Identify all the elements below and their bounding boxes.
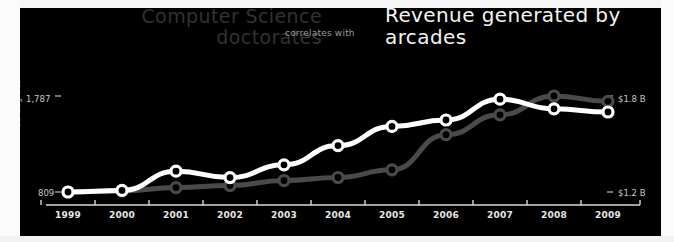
data-point-marker bbox=[333, 173, 343, 183]
x-axis-label-2005: 2005 bbox=[379, 210, 405, 220]
top-border bbox=[0, 0, 674, 8]
x-axis-label-1999: 1999 bbox=[55, 210, 81, 220]
x-axis-label-2003: 2003 bbox=[271, 210, 297, 220]
data-point-marker bbox=[63, 187, 73, 197]
data-point-marker bbox=[549, 91, 559, 101]
data-point-marker bbox=[603, 96, 613, 106]
data-point-marker bbox=[387, 121, 397, 131]
x-axis-label-2000: 2000 bbox=[109, 210, 135, 220]
data-point-marker bbox=[279, 160, 289, 170]
data-point-marker bbox=[495, 110, 505, 120]
left-border bbox=[0, 0, 20, 242]
data-point-marker bbox=[171, 183, 181, 193]
data-point-marker bbox=[225, 173, 235, 183]
x-axis-labels: 1999200020012002200320042005200620072008… bbox=[0, 210, 674, 228]
x-axis-label-2002: 2002 bbox=[217, 210, 243, 220]
data-point-marker bbox=[387, 165, 397, 175]
plot-area bbox=[0, 0, 674, 242]
chart-root: Computer Science doctorates correlates w… bbox=[0, 0, 674, 242]
x-axis-label-2008: 2008 bbox=[541, 210, 567, 220]
data-point-marker bbox=[495, 94, 505, 104]
x-axis-label-2009: 2009 bbox=[595, 210, 621, 220]
data-point-marker bbox=[603, 107, 613, 117]
data-point-marker bbox=[117, 185, 127, 195]
bottom-border bbox=[0, 236, 674, 242]
data-point-marker bbox=[333, 141, 343, 151]
x-axis-label-2004: 2004 bbox=[325, 210, 351, 220]
data-point-marker bbox=[171, 166, 181, 176]
data-point-marker bbox=[441, 115, 451, 125]
x-axis-label-2006: 2006 bbox=[433, 210, 459, 220]
right-border bbox=[661, 0, 674, 242]
data-point-marker bbox=[549, 104, 559, 114]
x-axis-label-2007: 2007 bbox=[487, 210, 513, 220]
data-point-marker bbox=[441, 130, 451, 140]
x-axis-label-2001: 2001 bbox=[163, 210, 189, 220]
x-axis-line bbox=[41, 200, 640, 205]
data-point-marker bbox=[279, 176, 289, 186]
